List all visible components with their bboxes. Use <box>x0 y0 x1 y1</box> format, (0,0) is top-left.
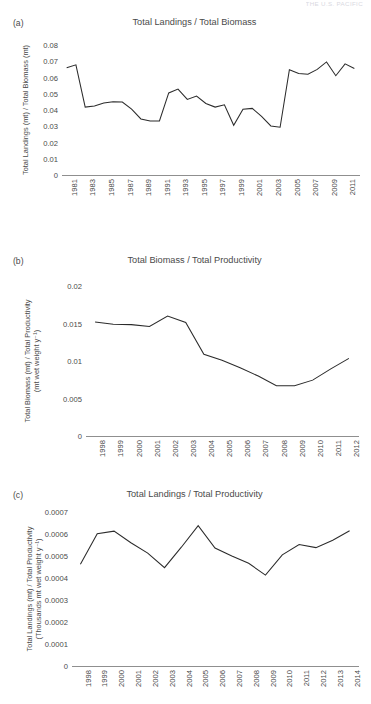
x-tick-label: 2003 <box>189 440 198 470</box>
y-tick-label: 0.0001 <box>45 640 68 649</box>
y-tick-label: 0.01 <box>43 154 58 163</box>
x-tick-label: 2007 <box>311 179 320 209</box>
x-tick-label: 2007 <box>261 440 270 470</box>
x-tick-label: 2005 <box>201 670 210 700</box>
x-tick-label: 2005 <box>225 440 234 470</box>
data-series-b <box>86 286 360 438</box>
y-tick-label: 0.07 <box>43 57 58 66</box>
x-tick-label: 2012 <box>352 440 361 470</box>
x-tick-label: 1981 <box>70 179 79 209</box>
y-tick-label: 0.03 <box>43 122 58 131</box>
x-tick-label: 1987 <box>126 179 135 209</box>
x-tick-label: 1998 <box>84 670 93 700</box>
y-tick-label: 0.05 <box>43 89 58 98</box>
plot-area-b <box>86 286 358 436</box>
data-series-a <box>62 45 361 177</box>
x-tick-label: 2011 <box>334 440 343 470</box>
x-tick-label: 2012 <box>319 670 328 700</box>
y-axis-label-b: Total Biomass (mt) / Total Productivity … <box>24 286 41 436</box>
y-tick-label: 0.02 <box>67 282 82 291</box>
y-tick-label: 0.0003 <box>45 596 68 605</box>
chart-panel-a: (a) Total Landings / Total Biomass Total… <box>0 12 371 244</box>
data-series-c <box>72 512 360 668</box>
x-tick-label: 1993 <box>181 179 190 209</box>
x-tick-label: 2001 <box>153 440 162 470</box>
y-axis-label-c: Total Landings (mt) / Total Productivity… <box>26 512 43 666</box>
x-tick-label: 2009 <box>298 440 307 470</box>
x-tick-label: 2006 <box>243 440 252 470</box>
panel-title-a: Total Landings / Total Biomass <box>0 17 371 27</box>
x-tick-label: 2006 <box>218 670 227 700</box>
x-tick-label: 2004 <box>207 440 216 470</box>
y-tick-label: 0.0005 <box>45 552 68 561</box>
y-tick-label: 0.02 <box>43 138 58 147</box>
x-tick-label: 2011 <box>348 179 357 209</box>
x-tick-label: 2011 <box>302 670 311 700</box>
x-tick-label: 2008 <box>252 670 261 700</box>
x-tick-label: 2001 <box>134 670 143 700</box>
y-tick-label: 0.0006 <box>45 530 68 539</box>
x-tick-label: 2010 <box>316 440 325 470</box>
x-tick-label: 1989 <box>144 179 153 209</box>
y-axis-label-a: Total Landings (mt) / Total Biomass (mt) <box>22 45 31 175</box>
chart-panel-b: (b) Total Biomass / Total Productivity T… <box>0 250 371 480</box>
line-path-c <box>80 526 349 576</box>
running-head: THE U.S. PACIFIC <box>306 0 363 7</box>
line-path-b <box>95 316 349 386</box>
y-tick-label: 0.0002 <box>45 618 68 627</box>
y-tick-label: 0 <box>54 171 58 180</box>
y-tick-label: 0.005 <box>63 394 82 403</box>
x-tick-label: 2007 <box>235 670 244 700</box>
x-tick-label: 2009 <box>269 670 278 700</box>
y-tick-label: 0 <box>64 662 68 671</box>
x-tick-label: 1999 <box>116 440 125 470</box>
y-tick-label: 0.015 <box>63 319 82 328</box>
y-tick-label: 0.04 <box>43 106 58 115</box>
x-tick-label: 1985 <box>107 179 116 209</box>
x-tick-label: 1997 <box>218 179 227 209</box>
x-tick-label: 2000 <box>135 440 144 470</box>
x-tick-label: 2001 <box>255 179 264 209</box>
x-tick-label: 1983 <box>88 179 97 209</box>
y-tick-label: 0.06 <box>43 73 58 82</box>
x-tick-label: 1991 <box>163 179 172 209</box>
x-tick-label: 2008 <box>280 440 289 470</box>
figure-page: THE U.S. PACIFIC (a) Total Landings / To… <box>0 0 371 704</box>
x-tick-label: 1995 <box>200 179 209 209</box>
x-tick-label: 2002 <box>151 670 160 700</box>
x-tick-label: 2003 <box>168 670 177 700</box>
y-tick-label: 0.01 <box>67 357 82 366</box>
plot-area-c <box>72 512 358 666</box>
panel-title-b: Total Biomass / Total Productivity <box>0 255 371 265</box>
x-tick-label: 1999 <box>237 179 246 209</box>
x-tick-label: 2002 <box>171 440 180 470</box>
line-path-a <box>67 62 355 127</box>
x-tick-label: 2013 <box>336 670 345 700</box>
y-tick-label: 0.0004 <box>45 574 68 583</box>
x-tick-label: 2005 <box>293 179 302 209</box>
x-tick-label: 2000 <box>117 670 126 700</box>
x-tick-label: 2003 <box>274 179 283 209</box>
x-tick-label: 2004 <box>185 670 194 700</box>
chart-panel-c: (c) Total Landings / Total Productivity … <box>0 484 371 704</box>
y-tick-label: 0.0007 <box>45 508 68 517</box>
x-tick-label: 2009 <box>330 179 339 209</box>
panel-title-c: Total Landings / Total Productivity <box>0 489 371 499</box>
x-tick-label: 2014 <box>353 670 362 700</box>
x-tick-label: 1999 <box>100 670 109 700</box>
y-tick-label: 0.08 <box>43 41 58 50</box>
plot-area-a <box>62 45 359 175</box>
y-tick-label: 0 <box>78 432 82 441</box>
x-tick-label: 2010 <box>285 670 294 700</box>
x-tick-label: 1998 <box>98 440 107 470</box>
